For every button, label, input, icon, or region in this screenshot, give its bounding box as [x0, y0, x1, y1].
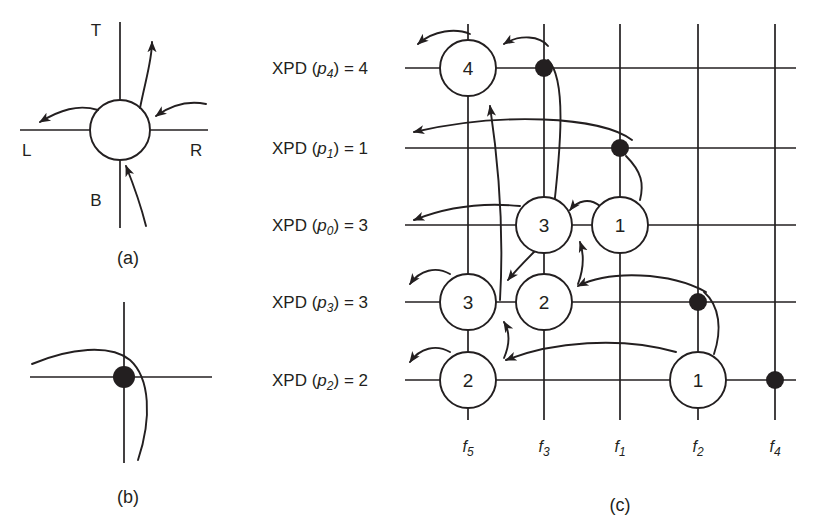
dot-f1-p1 [611, 139, 629, 157]
arrow-p1-out-left [414, 119, 632, 140]
panel-a-label-top: T [91, 21, 101, 40]
panel-c-column-labels: f5 f3 f1 f2 f4 [462, 438, 780, 459]
row-label-p2: XPD (p2) = 2 [272, 371, 368, 393]
panel-b-crossing-dot [113, 366, 135, 388]
col-label-f3: f3 [538, 438, 549, 459]
arrow-p0-out-left [414, 205, 520, 220]
node-label: 2 [539, 292, 550, 313]
panel-b: (b) [30, 302, 212, 507]
col-label-f5: f5 [462, 438, 473, 459]
panel-a-arrow-to-top [140, 42, 152, 108]
arrow-node1-to-node3 [570, 201, 600, 210]
arrow-node1-to-node2-p2 [506, 343, 676, 360]
row-label-p1: XPD (p1) = 1 [272, 139, 368, 161]
arrow-p4-dot-to-node4 [504, 37, 548, 46]
panel-a-arrow-from-right [156, 103, 206, 116]
arrow-node2-up-to-node3-f5 [504, 322, 509, 358]
panel-c-nodes: 4 3 1 3 2 2 1 [440, 40, 726, 408]
node-f5-p3[interactable]: 3 [440, 274, 496, 330]
arrow-node2-up-to-node3 [578, 242, 583, 284]
node-f5-p2[interactable]: 2 [440, 352, 496, 408]
dot-f3-p4 [535, 59, 553, 77]
panel-a-arrow-to-left [40, 108, 98, 122]
panel-c-row-labels: XPD (p4) = 4 XPD (p1) = 1 XPD (p0) = 3 X… [272, 59, 368, 393]
node-label: 4 [463, 58, 474, 79]
col-label-f4: f4 [769, 438, 780, 459]
panel-a-label-bottom: B [90, 191, 101, 210]
node-f3-p3[interactable]: 2 [516, 274, 572, 330]
row-label-p3: XPD (p3) = 3 [272, 293, 368, 315]
panel-a-crossing-circle [90, 100, 150, 160]
node-f5-p4[interactable]: 4 [440, 40, 496, 96]
col-label-f1: f1 [614, 438, 625, 459]
arrow-p3-out-left [410, 270, 450, 284]
row-label-p4: XPD (p4) = 4 [272, 59, 368, 81]
panel-c: 4 3 1 3 2 2 1 [272, 24, 796, 515]
panel-b-crossing-curve [32, 350, 147, 460]
panel-a-label-right: R [190, 141, 202, 160]
node-label: 1 [693, 370, 704, 391]
arrow-p2-out-left [410, 348, 450, 362]
panel-a-caption: (a) [117, 248, 139, 268]
figure-root: T L R B (a) (b) [0, 0, 820, 525]
figure-svg: T L R B (a) (b) [0, 0, 820, 525]
arrow-up-to-node4 [490, 106, 501, 300]
curve-f1-dot-to-node1 [626, 156, 642, 200]
col-label-f2: f2 [692, 438, 703, 459]
dot-f4-p2 [766, 371, 784, 389]
node-f3-p0[interactable]: 3 [516, 197, 572, 253]
panel-a: T L R B (a) [20, 21, 208, 268]
panel-a-arrow-from-bottom [126, 166, 146, 226]
panel-b-caption: (b) [117, 487, 139, 507]
row-label-p0: XPD (p0) = 3 [272, 216, 368, 238]
dot-f2-p3 [689, 293, 707, 311]
panel-c-caption: (c) [610, 495, 631, 515]
node-label: 1 [615, 215, 626, 236]
panel-a-label-left: L [22, 141, 31, 160]
node-f2-p2[interactable]: 1 [670, 352, 726, 408]
node-f1-p0[interactable]: 1 [592, 197, 648, 253]
node-label: 2 [463, 370, 474, 391]
arrow-f2dot-to-node2 [578, 275, 706, 292]
node-label: 3 [463, 292, 474, 313]
node-label: 3 [539, 215, 550, 236]
arrow-down-to-node2-f3 [508, 250, 536, 280]
